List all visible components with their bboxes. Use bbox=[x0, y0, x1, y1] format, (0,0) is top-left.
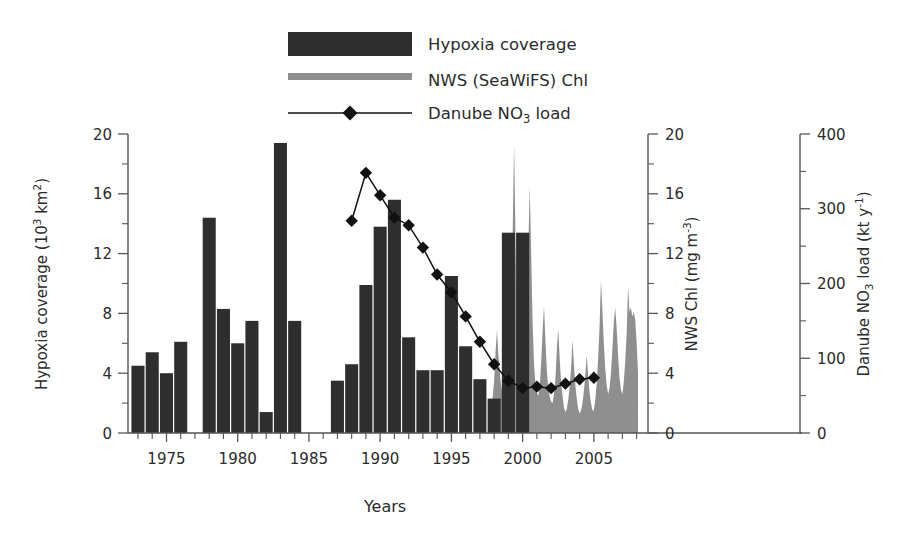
y-left-tick-label-8: 8 bbox=[102, 305, 112, 323]
y-left-tick-label-0: 0 bbox=[102, 425, 112, 443]
bar-1997 bbox=[473, 379, 486, 433]
y-left-tick-label-4: 4 bbox=[102, 365, 112, 383]
chart-svg: Hypoxia coverage NWS (SeaWiFS) Chl Danub… bbox=[0, 0, 916, 534]
y-mid-tick-label-16: 16 bbox=[665, 185, 684, 203]
danube-marker-1993 bbox=[417, 241, 429, 253]
x-axis-title: Years bbox=[363, 497, 406, 516]
hypoxia-chl-danube-chart: Hypoxia coverage NWS (SeaWiFS) Chl Danub… bbox=[0, 0, 916, 534]
y-left-axis-title: Hypoxia coverage (103 km2) bbox=[31, 178, 51, 390]
y-mid-axis-title: NWS Chl (mg m-3) bbox=[681, 217, 701, 352]
y-right-axis-title: Danube NO3 load (kt y-1) bbox=[853, 191, 875, 376]
plot-area bbox=[131, 143, 638, 433]
bar-1992 bbox=[402, 337, 415, 433]
x-tick-label-2005: 2005 bbox=[575, 450, 613, 468]
y-right-tick-label-0: 0 bbox=[817, 425, 827, 443]
bar-1979 bbox=[217, 309, 230, 433]
bar-1996 bbox=[459, 346, 472, 433]
bar-1999 bbox=[502, 233, 515, 433]
y-mid-tick-label-8: 8 bbox=[665, 305, 675, 323]
bar-1987 bbox=[331, 381, 344, 433]
bar-1975 bbox=[160, 373, 173, 433]
y-left-tick-label-20: 20 bbox=[93, 126, 112, 144]
x-tick-label-1995: 1995 bbox=[432, 450, 470, 468]
danube-marker-1992 bbox=[402, 219, 414, 231]
y-right-tick-label-100: 100 bbox=[817, 350, 846, 368]
danube-marker-1997 bbox=[474, 336, 486, 348]
x-tick-label-1980: 1980 bbox=[219, 450, 257, 468]
bar-2000 bbox=[516, 233, 529, 433]
bar-1989 bbox=[359, 285, 372, 433]
bar-1981 bbox=[245, 321, 258, 433]
y-mid-tick-label-12: 12 bbox=[665, 245, 684, 263]
bar-1984 bbox=[288, 321, 301, 433]
legend-swatch-hypoxia bbox=[288, 32, 412, 56]
danube-marker-1996 bbox=[459, 310, 471, 322]
bar-1978 bbox=[203, 218, 216, 433]
bar-1982 bbox=[260, 412, 273, 433]
hypoxia-bars-group bbox=[131, 143, 529, 433]
danube-marker-1990 bbox=[374, 189, 386, 201]
bar-1980 bbox=[231, 343, 244, 433]
bar-1983 bbox=[274, 143, 287, 433]
bar-1988 bbox=[345, 364, 358, 433]
bar-1993 bbox=[416, 370, 429, 433]
bar-1974 bbox=[146, 352, 159, 433]
y-left-tick-label-16: 16 bbox=[93, 185, 112, 203]
bar-1990 bbox=[374, 227, 387, 433]
x-tick-label-2000: 2000 bbox=[504, 450, 542, 468]
y-left-tick-label-12: 12 bbox=[93, 245, 112, 263]
y-mid-tick-label-0: 0 bbox=[665, 425, 675, 443]
legend-swatch-danube-marker bbox=[343, 106, 358, 121]
danube-marker-2004 bbox=[573, 373, 585, 385]
y-mid-tick-label-4: 4 bbox=[665, 365, 675, 383]
chart-legend: Hypoxia coverage NWS (SeaWiFS) Chl Danub… bbox=[288, 32, 588, 126]
bar-1976 bbox=[174, 342, 187, 433]
x-tick-label-1990: 1990 bbox=[361, 450, 399, 468]
danube-marker-1989 bbox=[360, 167, 372, 179]
legend-label-danube: Danube NO3 load bbox=[428, 104, 571, 126]
y-mid-tick-label-20: 20 bbox=[665, 126, 684, 144]
legend-label-chl: NWS (SeaWiFS) Chl bbox=[428, 71, 588, 90]
y-right-tick-label-300: 300 bbox=[817, 200, 846, 218]
bar-1991 bbox=[388, 200, 401, 433]
y-right-tick-label-400: 400 bbox=[817, 126, 846, 144]
bar-1973 bbox=[131, 366, 144, 433]
x-tick-label-1975: 1975 bbox=[147, 450, 185, 468]
legend-swatch-chl bbox=[288, 73, 412, 80]
bar-1994 bbox=[431, 370, 444, 433]
legend-label-hypoxia: Hypoxia coverage bbox=[428, 35, 577, 54]
x-tick-label-1985: 1985 bbox=[290, 450, 328, 468]
y-right-tick-label-200: 200 bbox=[817, 275, 846, 293]
danube-marker-1988 bbox=[345, 215, 357, 227]
bar-1998 bbox=[488, 399, 501, 433]
